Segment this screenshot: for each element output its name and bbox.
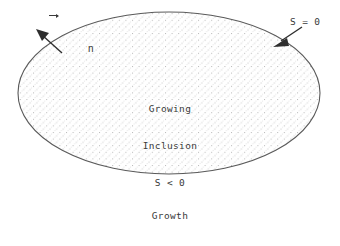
normal-vector-symbol: n <box>88 43 94 54</box>
inclusion-label-line1: Growing <box>0 103 340 115</box>
normal-vector-label: n <box>24 6 46 80</box>
vector-overbar-icon <box>49 15 58 16</box>
inclusion-diagram: n S = 0 Growing Inclusion S < 0 Growth M… <box>0 0 340 246</box>
medium-region-label: Growth Medium S > 0 <box>0 185 340 246</box>
inclusion-label-line2: Inclusion <box>0 140 340 152</box>
medium-label-line1: Growth <box>0 210 340 222</box>
boundary-label: S = 0 <box>290 16 336 28</box>
